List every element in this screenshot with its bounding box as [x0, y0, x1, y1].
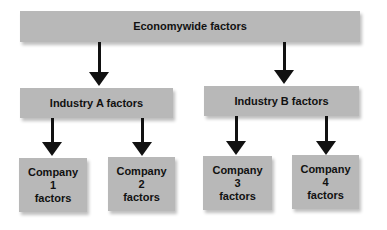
company-3-number: 3	[234, 177, 240, 190]
company-2-number: 2	[138, 178, 144, 191]
arrow-industry-b-to-company-4	[316, 116, 336, 156]
company-3-line3: factors	[219, 190, 256, 203]
company-2-factors-box: Company 2 factors	[108, 157, 175, 211]
company-1-line1: Company	[28, 166, 78, 179]
company-4-line1: Company	[300, 163, 350, 176]
company-2-line3: factors	[123, 191, 160, 204]
company-4-line3: factors	[307, 189, 344, 202]
industry-b-factors-box: Industry B factors	[204, 86, 359, 116]
company-4-factors-box: Company 4 factors	[292, 155, 359, 209]
company-3-factors-box: Company 3 factors	[203, 156, 272, 210]
arrow-economy-to-industry-a	[89, 42, 109, 86]
arrow-industry-a-to-company-2	[132, 118, 152, 156]
company-3-line1: Company	[212, 164, 262, 177]
arrow-industry-a-to-company-1	[42, 118, 62, 156]
company-4-number: 4	[322, 176, 328, 189]
industry-b-label: Industry B factors	[234, 95, 328, 108]
industry-a-factors-box: Industry A factors	[20, 88, 173, 118]
company-2-line1: Company	[116, 165, 166, 178]
company-1-line3: factors	[35, 192, 72, 205]
arrow-economy-to-industry-b	[274, 42, 294, 84]
company-1-number: 1	[50, 179, 56, 192]
arrow-industry-b-to-company-3	[226, 116, 246, 156]
economywide-factors-box: Economywide factors	[20, 11, 360, 42]
economywide-factors-label: Economywide factors	[133, 20, 247, 33]
company-1-factors-box: Company 1 factors	[19, 158, 87, 212]
industry-a-label: Industry A factors	[50, 97, 143, 110]
